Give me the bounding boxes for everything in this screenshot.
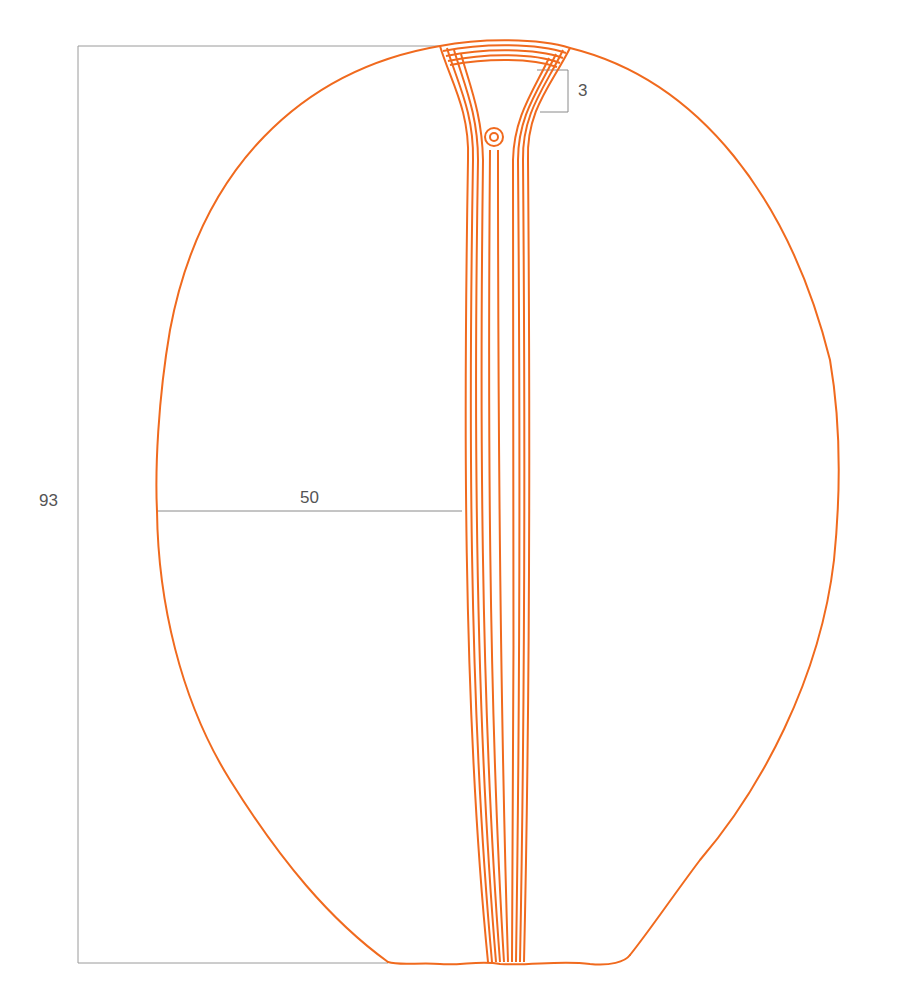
center-ring [485,128,503,146]
width-dimension-label: 50 [300,488,319,508]
band-dimension-label: 3 [578,81,587,101]
outline-drawing [0,0,899,1000]
height-dimension-label: 93 [39,491,58,511]
center-strands [466,150,530,962]
